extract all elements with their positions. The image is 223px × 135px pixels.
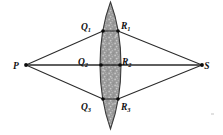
point-p bbox=[24, 63, 28, 67]
point-s bbox=[200, 63, 204, 67]
ray-p-q3 bbox=[26, 65, 103, 99]
point-q2 bbox=[99, 63, 103, 67]
label-q2: Q2 bbox=[78, 57, 89, 68]
point-q3 bbox=[101, 97, 105, 101]
label-p: P bbox=[13, 61, 19, 71]
optics-ray-diagram: P S Q1 R1 Q2 R2 Q3 R3 bbox=[0, 0, 223, 135]
scan-speck bbox=[211, 113, 214, 115]
label-r3: R3 bbox=[120, 102, 131, 113]
label-r3-sub: 3 bbox=[126, 106, 131, 113]
label-q1: Q1 bbox=[81, 22, 91, 33]
ray-r3-s bbox=[118, 65, 202, 99]
label-r1: R1 bbox=[120, 21, 131, 32]
label-r2-base: R bbox=[121, 57, 128, 67]
point-r1 bbox=[116, 29, 120, 33]
label-r3-base: R bbox=[120, 102, 127, 112]
point-q1 bbox=[101, 29, 105, 33]
diagram-canvas: P S Q1 R1 Q2 R2 Q3 R3 bbox=[0, 0, 223, 135]
label-r1-base: R bbox=[120, 21, 127, 31]
point-r3 bbox=[116, 97, 120, 101]
label-q3: Q3 bbox=[81, 102, 92, 113]
label-q1-sub: 1 bbox=[88, 26, 91, 33]
label-r1-sub: 1 bbox=[127, 25, 130, 32]
ray-p-q1 bbox=[26, 31, 103, 65]
label-q3-sub: 3 bbox=[87, 106, 92, 113]
ray-r1-s bbox=[118, 31, 202, 65]
label-s: S bbox=[204, 61, 209, 71]
label-r2: R2 bbox=[121, 57, 132, 68]
